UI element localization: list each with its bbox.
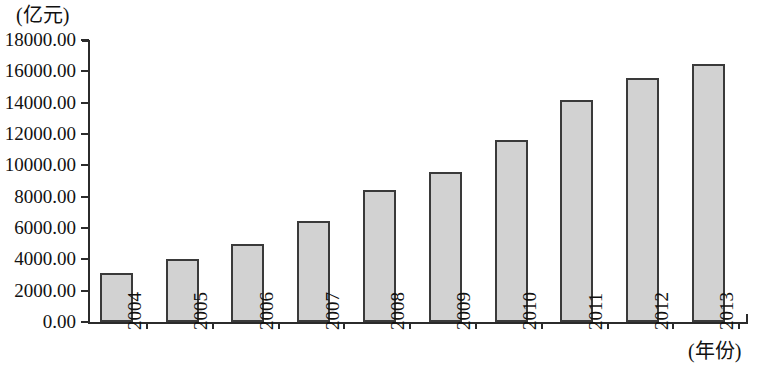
x-axis-category-label: 2010 (520, 310, 540, 330)
x-axis-category-label: 2009 (454, 310, 474, 330)
x-axis-tick (343, 322, 345, 329)
y-axis-tick-label: 2000.00 (14, 281, 76, 300)
y-axis-tick (81, 133, 89, 135)
x-axis-tick (475, 322, 477, 329)
y-axis-tick (81, 70, 89, 72)
y-axis-tick (81, 290, 89, 292)
x-axis-tick (672, 322, 674, 329)
y-axis-tick-label: 12000.00 (5, 124, 76, 143)
x-axis-tick (738, 322, 740, 329)
x-axis-unit-label: (年份) (688, 340, 741, 362)
x-axis-tick (212, 322, 214, 329)
x-axis-category-label: 2007 (323, 310, 343, 330)
y-axis-tick-label: 4000.00 (14, 249, 76, 268)
y-axis-tick (81, 321, 89, 323)
x-axis-tick (146, 322, 148, 329)
x-axis-category-label: 2005 (191, 310, 211, 330)
y-axis-tick-label: 8000.00 (14, 187, 76, 206)
x-axis-end-cap (746, 314, 748, 324)
x-axis-tick (409, 322, 411, 329)
y-axis-tick-label: 14000.00 (5, 93, 76, 112)
y-axis-tick (81, 39, 89, 41)
x-axis-tick (541, 322, 543, 329)
y-axis-tick-label: 10000.00 (5, 155, 76, 174)
x-axis-category-label: 2004 (125, 310, 145, 330)
x-axis-line (88, 322, 748, 324)
y-axis-unit-label: (亿元) (16, 4, 69, 26)
bar (692, 64, 725, 323)
y-axis-tick-label: 18000.00 (5, 30, 76, 49)
y-axis-tick (81, 196, 89, 198)
bar-chart: (亿元) 0.002000.004000.006000.008000.00100… (0, 0, 766, 382)
x-axis-category-label: 2006 (257, 310, 277, 330)
y-axis-tick-label: 6000.00 (14, 218, 76, 237)
bar (560, 100, 593, 322)
y-axis-tick-label: 0.00 (43, 312, 76, 331)
x-axis-category-label: 2012 (652, 310, 672, 330)
y-axis-line (88, 40, 90, 324)
y-axis-tick-label: 16000.00 (5, 61, 76, 80)
y-axis-tick (81, 227, 89, 229)
x-axis-tick (278, 322, 280, 329)
y-axis-tick (81, 164, 89, 166)
y-axis-tick (81, 102, 89, 104)
bar (626, 78, 659, 322)
x-axis-category-label: 2011 (586, 310, 606, 330)
x-axis-tick (607, 322, 609, 329)
x-axis-category-label: 2013 (717, 310, 737, 330)
y-axis-tick (81, 258, 89, 260)
x-axis-category-label: 2008 (388, 310, 408, 330)
